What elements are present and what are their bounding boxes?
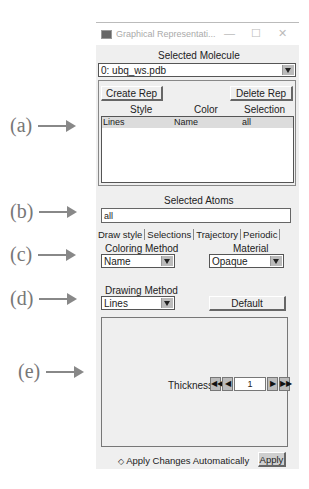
apply-button[interactable]: Apply (258, 452, 286, 467)
coloring-method-value: Name (104, 256, 131, 267)
arrow-right-icon (46, 371, 82, 373)
arrow-right-icon (39, 298, 75, 300)
material-label: Material (233, 243, 269, 254)
delete-rep-button[interactable]: Delete Rep (230, 86, 293, 101)
annotation-d: (d) (10, 287, 75, 310)
selected-atoms-input[interactable]: all (101, 208, 291, 223)
material-select[interactable]: Opaque (209, 254, 284, 268)
close-button[interactable]: ✕ (278, 27, 287, 40)
arrow-right-icon (39, 211, 75, 213)
coloring-method-label: Coloring Method (105, 243, 178, 254)
rep-style-cell: Lines (103, 117, 125, 127)
thickness-increment-button[interactable]: ▶ (267, 377, 278, 391)
drawing-method-select[interactable]: Lines (101, 296, 175, 310)
molecule-select[interactable]: 0: ubq_ws.pdb (98, 63, 296, 77)
tab-selections[interactable]: Selections (147, 229, 194, 240)
tab-trajectory[interactable]: Trajectory (196, 229, 241, 240)
arrow-right-icon (38, 254, 74, 256)
annotation-d-label: (d) (10, 287, 33, 310)
tab-periodic[interactable]: Periodic (243, 229, 280, 240)
app-icon (101, 30, 112, 39)
selected-molecule-label: Selected Molecule (158, 50, 240, 61)
tab-draw-style[interactable]: Draw style (98, 229, 145, 240)
thickness-decrement-button[interactable]: ◀ (222, 377, 233, 391)
default-button[interactable]: Default (209, 296, 286, 311)
thickness-label: Thickness (168, 380, 213, 391)
table-row[interactable]: Lines Name all (102, 117, 293, 128)
tab-bar: Draw styleSelectionsTrajectoryPeriodic (98, 229, 282, 240)
minimize-button[interactable]: — (224, 27, 235, 39)
arrow-right-icon (38, 125, 74, 127)
annotation-a: (a) (10, 114, 74, 137)
selected-atoms-label: Selected Atoms (164, 195, 233, 206)
rep-selection-cell: all (242, 117, 251, 127)
maximize-button[interactable]: ☐ (251, 27, 261, 40)
annotation-c: (c) (10, 243, 74, 266)
column-header-style: Style (130, 104, 152, 115)
chevron-down-icon (270, 256, 282, 266)
radio-diamond-icon[interactable]: ◇ (118, 457, 124, 466)
graphical-representations-window: Graphical Representati... — ☐ ✕ Selected… (96, 22, 299, 469)
apply-automatically-label: Apply Changes Automatically (126, 455, 249, 466)
create-rep-button[interactable]: Create Rep (101, 86, 163, 101)
coloring-method-select[interactable]: Name (101, 254, 175, 268)
column-header-color: Color (194, 104, 218, 115)
apply-automatically-toggle[interactable]: ◇ Apply Changes Automatically (118, 455, 249, 466)
annotation-b: (b) (10, 200, 75, 223)
title-bar: Graphical Representati... — ☐ ✕ (96, 23, 299, 45)
chevron-down-icon (161, 256, 173, 266)
reps-list[interactable]: Lines Name all (101, 116, 294, 183)
annotation-b-label: (b) (10, 200, 33, 223)
thickness-first-button[interactable]: ◀◀ (210, 377, 221, 391)
chevron-down-icon (161, 298, 173, 308)
annotation-a-label: (a) (10, 114, 32, 137)
molecule-select-value: 0: ubq_ws.pdb (101, 65, 166, 76)
annotation-e-label: (e) (18, 360, 40, 383)
rep-color-cell: Name (174, 117, 198, 127)
material-value: Opaque (212, 256, 248, 267)
thickness-input[interactable]: 1 (234, 377, 266, 391)
drawing-method-label: Drawing Method (105, 285, 178, 296)
chevron-down-icon (282, 65, 294, 75)
column-header-selection: Selection (244, 104, 285, 115)
drawing-method-value: Lines (104, 298, 128, 309)
annotation-c-label: (c) (10, 243, 32, 266)
window-title: Graphical Representati... (116, 29, 216, 39)
annotation-e: (e) (18, 360, 82, 383)
thickness-last-button[interactable]: ▶▶ (279, 377, 290, 391)
